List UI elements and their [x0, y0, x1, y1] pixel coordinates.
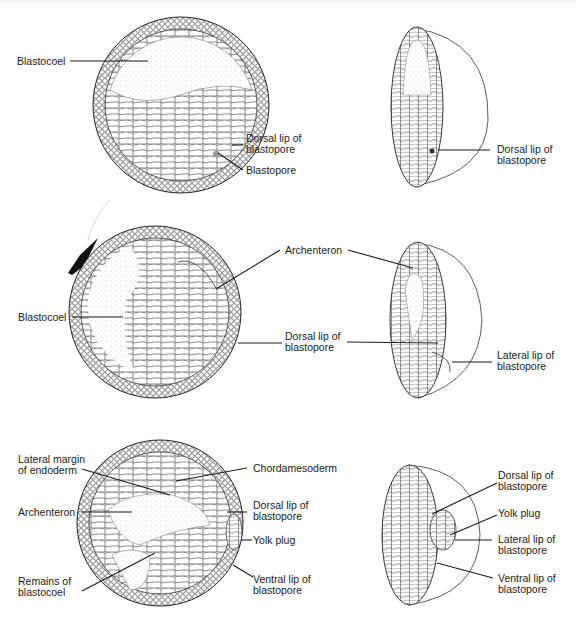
- late-gastrula-hemisphere: [382, 465, 480, 605]
- label-hemi-dorsal-lip-3b: blastopore: [498, 480, 547, 492]
- label-blastopore-1: Blastopore: [246, 164, 296, 176]
- mid-gastrula-section: [69, 226, 241, 398]
- label-blastocoel-1: Blastocoel: [17, 55, 65, 67]
- label-hemi-dorsal-lip-1b: blastopore: [497, 154, 546, 166]
- label-remains-b: blastocoel: [18, 586, 65, 598]
- label-hemi-yolk-plug: Yolk plug: [498, 507, 540, 519]
- label-lateral-lip-2b: blastopore: [497, 360, 546, 372]
- early-gastrula-hemisphere: [391, 27, 488, 187]
- label-hemi-lateral-lip-b: blastopore: [498, 544, 547, 556]
- label-dorsal-lip-1b: blastopore: [246, 143, 295, 155]
- early-gastrula-section: [93, 17, 269, 193]
- label-archenteron-2: Archenteron: [285, 244, 342, 256]
- label-ventral-lip-3b: blastopore: [253, 584, 302, 596]
- label-yolk-plug-3: Yolk plug: [253, 534, 295, 546]
- label-chordamesoderm: Chordamesoderm: [253, 462, 337, 474]
- label-dorsal-lip-2b: blastopore: [285, 341, 334, 353]
- label-archenteron-3: Archenteron: [18, 506, 75, 518]
- label-blastocoel-2: Blastocoel: [18, 311, 66, 323]
- label-lateral-margin-b: of endoderm: [18, 464, 77, 476]
- label-dorsal-lip-3b: blastopore: [253, 510, 302, 522]
- figure-artwork: [0, 0, 576, 619]
- label-hemi-ventral-lip-b: blastopore: [498, 583, 547, 595]
